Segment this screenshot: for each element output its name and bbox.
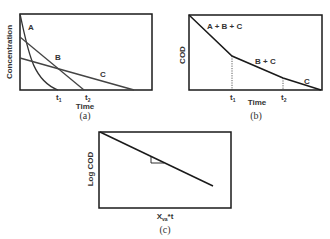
curve-c-label: C — [100, 70, 106, 79]
panel-b: A + B + C B + C C t1 t2 Time COD (b) — [178, 15, 322, 122]
tick-t1: t1 — [56, 93, 62, 103]
panel-a: A B C t1 t2 Time Concentration (a) — [5, 14, 152, 122]
panel-b-caption: (b) — [250, 110, 262, 122]
panel-a-frame — [20, 14, 152, 90]
panel-c-caption: (c) — [159, 224, 170, 236]
curve-c — [20, 58, 134, 90]
panel-b-xlabel: Time — [248, 98, 267, 107]
panel-c-xlabel: Xva*t — [157, 212, 174, 222]
segment-c-label: C — [304, 77, 310, 86]
panel-c-ylabel: Log COD — [86, 151, 95, 186]
segment-bc-label: B + C — [255, 57, 276, 66]
panel-a-caption: (a) — [79, 110, 90, 122]
figure: A B C t1 t2 Time Concentration (a) A + B… — [0, 0, 330, 239]
log-cod-line — [100, 132, 213, 186]
panel-c: Xva*t Log COD (c) — [86, 132, 231, 236]
curve-a-label: A — [28, 23, 34, 32]
panel-a-ylabel: Concentration — [5, 25, 14, 79]
curve-b-label: B — [55, 53, 61, 62]
curve-b — [20, 37, 84, 90]
panel-b-ylabel: COD — [178, 46, 187, 64]
panel-c-frame — [99, 132, 231, 208]
tick-t1-b: t1 — [230, 93, 236, 103]
segment-abc-label: A + B + C — [207, 22, 242, 31]
tick-t2-b: t2 — [281, 93, 287, 103]
